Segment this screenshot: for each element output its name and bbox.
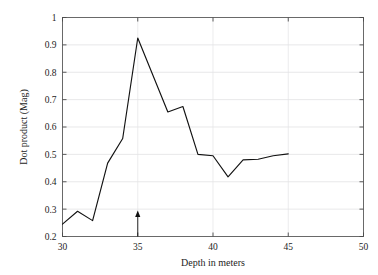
y-tick-label: 0.5 — [45, 150, 57, 160]
y-tick-label: 0.9 — [45, 40, 57, 50]
y-tick-label: 0.8 — [45, 68, 57, 78]
y-tick-label: 0.6 — [45, 122, 57, 132]
x-tick-label: 35 — [133, 242, 143, 252]
x-tick-label: 45 — [284, 242, 294, 252]
x-axis-title: Depth in meters — [181, 257, 245, 268]
data-series-line — [63, 38, 289, 224]
annotation-arrow-head — [135, 210, 140, 217]
x-tick-label: 40 — [208, 242, 218, 252]
y-tick-label: 0.7 — [45, 95, 57, 105]
y-tick-label: 0.2 — [45, 232, 57, 242]
y-tick-label: 0.3 — [45, 205, 57, 215]
y-tick-label: 0.4 — [45, 177, 57, 187]
y-axis-title: Dot product (Mag) — [18, 89, 30, 165]
x-tick-label: 50 — [359, 242, 369, 252]
line-chart: 0.20.30.40.50.60.70.80.913035404550Depth… — [0, 0, 378, 275]
x-tick-label: 30 — [58, 242, 68, 252]
y-tick-label: 1 — [52, 13, 57, 23]
chart-figure: 0.20.30.40.50.60.70.80.913035404550Depth… — [0, 0, 378, 275]
